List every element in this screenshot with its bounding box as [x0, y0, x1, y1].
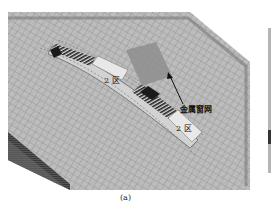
pointer-label: 金属窗网 [180, 103, 212, 114]
neighbor-panel-edge [268, 28, 271, 173]
fe-mesh-model-illustration [0, 0, 271, 207]
panel-caption: (a) [0, 193, 261, 202]
fe-model-panel-a: 2 区 2 区 金属窗网 (a) [0, 0, 271, 207]
zone-label-lower: 2 区 [176, 122, 192, 133]
zone-label-upper: 2 区 [104, 74, 120, 85]
